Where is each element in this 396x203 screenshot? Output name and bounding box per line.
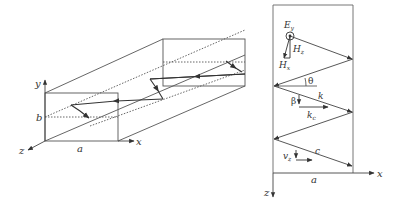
x-axis-label-2d: x	[377, 168, 383, 179]
edge-bottom-left	[45, 55, 245, 141]
theta-label: θ	[308, 76, 313, 86]
z-axis-label: z	[18, 145, 25, 156]
z-axis-label-2d: z	[263, 187, 270, 198]
hx-label: Hx	[278, 60, 291, 71]
vz-label: vz	[283, 151, 292, 162]
k-decomposition	[299, 95, 328, 107]
k-label: k	[318, 91, 323, 101]
waveguide-3d	[45, 30, 245, 141]
zigzag-rays	[274, 36, 353, 166]
axes-2d	[273, 173, 374, 197]
ray-3	[274, 86, 352, 112]
kc-label: kc	[307, 110, 316, 121]
ey-label: Ey	[283, 20, 295, 32]
b-label: b	[36, 112, 42, 123]
hz-label: Hz	[292, 44, 305, 55]
a-label-2d: a	[311, 174, 317, 185]
theta-arc	[305, 78, 306, 86]
z-axis-arrow	[28, 141, 45, 150]
back-face	[163, 39, 245, 86]
c-label: c	[315, 146, 320, 156]
wave-seg-2	[150, 79, 163, 99]
wave-seg-1b	[150, 74, 245, 79]
edge-top-left	[45, 39, 163, 93]
wave-seg-0	[226, 61, 242, 72]
h-field-vectors	[284, 36, 290, 58]
x-axis-label: x	[136, 136, 142, 147]
h-vector	[284, 36, 290, 58]
edge-bottom-right	[118, 86, 245, 141]
y-axis-label: y	[34, 78, 41, 89]
beta-label: β	[291, 96, 296, 106]
wave-seg-4	[71, 105, 89, 118]
a-label: a	[77, 143, 83, 154]
diagram-canvas: y b x z a θ Ey Hz Hx k β kc	[0, 0, 396, 203]
waveguide-2d	[273, 5, 353, 173]
